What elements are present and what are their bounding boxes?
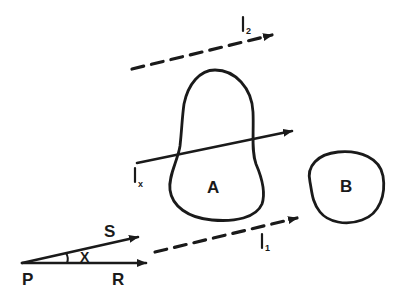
- region-a-label: A: [207, 178, 219, 197]
- line-l1-label: 1: [262, 234, 270, 253]
- line-l1-subscript: 1: [265, 243, 270, 253]
- line-l1: 1: [155, 218, 297, 253]
- line-lx-path: [137, 131, 292, 163]
- line-l2: 2: [132, 17, 272, 69]
- line-l2-label: 2: [243, 17, 251, 36]
- angle-arc-icon: [66, 253, 68, 263]
- line-lx-label: x: [135, 168, 143, 189]
- line-l2-subscript: 2: [246, 26, 251, 36]
- ray-s-label: S: [104, 222, 115, 241]
- region-b: B: [309, 152, 384, 223]
- diagram-canvas: 2 A x B 1 X P S R: [0, 0, 401, 304]
- region-b-label: B: [340, 177, 352, 196]
- line-lx-subscript: x: [138, 179, 143, 189]
- angle-psr: X P S R: [22, 222, 146, 289]
- vertex-p-label: P: [22, 270, 33, 289]
- line-l1-path: [155, 218, 297, 252]
- ray-r-label: R: [112, 270, 124, 289]
- line-l2-path: [132, 35, 272, 69]
- angle-label: X: [80, 249, 90, 265]
